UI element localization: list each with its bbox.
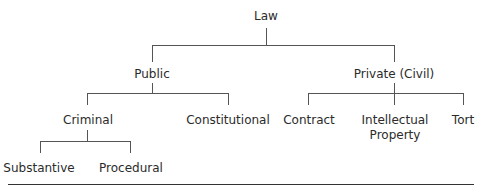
connector xyxy=(87,93,88,105)
connector xyxy=(87,130,88,141)
node-public: Public xyxy=(134,67,170,82)
node-criminal: Criminal xyxy=(63,113,113,128)
connector xyxy=(394,83,395,105)
connector xyxy=(152,45,395,46)
connector xyxy=(40,141,41,153)
connector xyxy=(40,141,131,142)
connector xyxy=(152,45,153,62)
connector xyxy=(308,93,464,94)
connector xyxy=(152,83,153,93)
node-intellectual-property-line2: Property xyxy=(370,128,421,143)
bottom-rule xyxy=(8,184,474,185)
connector xyxy=(266,28,267,45)
node-law: Law xyxy=(254,9,278,24)
connector xyxy=(308,93,309,105)
connector xyxy=(463,93,464,105)
connector xyxy=(87,93,229,94)
connector xyxy=(394,45,395,62)
node-substantive: Substantive xyxy=(3,161,74,176)
node-contract: Contract xyxy=(283,113,335,128)
connector xyxy=(130,141,131,153)
node-private: Private (Civil) xyxy=(354,67,435,82)
connector xyxy=(228,93,229,105)
node-procedural: Procedural xyxy=(99,161,163,176)
node-intellectual-property-line1: Intellectual xyxy=(362,113,429,128)
node-tort: Tort xyxy=(452,113,474,128)
node-constitutional: Constitutional xyxy=(186,113,270,128)
